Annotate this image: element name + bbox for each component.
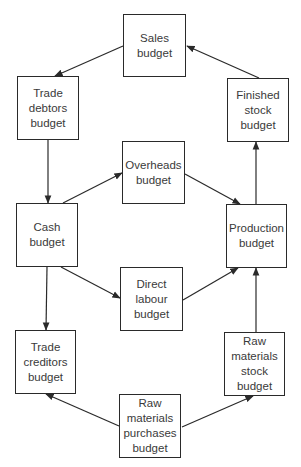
arrow-sales-to-trade_debtors — [55, 46, 123, 76]
node-sales-budget: Sales budget — [123, 14, 186, 77]
node-finished-stock-budget: Finished stock budget — [227, 78, 289, 142]
node-trade-debtors-budget: Trade debtors budget — [17, 76, 79, 140]
arrow-raw_materials_purchases-to-raw_materials_stock — [182, 396, 253, 427]
node-label: Direct labour budget — [134, 277, 169, 322]
node-label: Overheads budget — [125, 158, 181, 188]
arrow-cash-to-trade_creditors — [46, 267, 47, 330]
node-label: Raw materials purchases budget — [123, 396, 176, 456]
arrow-finished_stock-to-sales — [187, 46, 259, 78]
arrow-raw_materials_purchases-to-trade_creditors — [46, 394, 119, 426]
arrow-cash-to-direct_labour — [61, 267, 120, 298]
node-label: Trade creditors budget — [23, 340, 67, 385]
node-label: Trade debtors budget — [29, 86, 67, 131]
node-overheads-budget: Overheads budget — [122, 141, 185, 204]
node-label: Production budget — [229, 221, 284, 251]
arrow-overheads-to-production — [185, 174, 240, 204]
node-cash-budget: Cash budget — [16, 203, 78, 267]
node-label: Raw materials stock budget — [231, 334, 278, 394]
arrow-cash-to-overheads — [63, 173, 122, 203]
budget-flow-diagram: Sales budget Trade debtors budget Finish… — [0, 0, 301, 467]
node-raw-materials-stock-budget: Raw materials stock budget — [224, 332, 285, 396]
node-label: Cash budget — [29, 220, 64, 250]
node-label: Finished stock budget — [236, 88, 279, 133]
node-production-budget: Production budget — [226, 204, 287, 268]
node-label: Sales budget — [137, 31, 172, 61]
node-trade-creditors-budget: Trade creditors budget — [15, 330, 76, 394]
node-direct-labour-budget: Direct labour budget — [120, 267, 183, 331]
node-raw-materials-purchases-budget: Raw materials purchases budget — [119, 394, 181, 458]
arrow-direct_labour-to-production — [183, 268, 238, 300]
